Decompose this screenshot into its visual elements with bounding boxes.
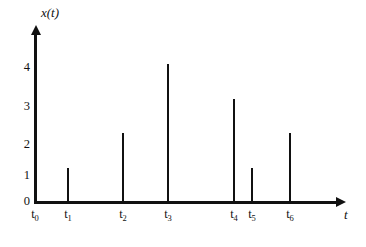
x-tick-label-t0: t0 (22, 208, 48, 221)
x-tick-subscript: 1 (68, 213, 72, 223)
x-tick-subscript: 4 (234, 213, 238, 223)
x-axis-line (34, 201, 340, 204)
y-tick-label-0: 0 (16, 195, 30, 208)
stem-t1 (67, 168, 68, 203)
x-axis-title: t (344, 208, 348, 221)
stem-t4 (233, 99, 234, 203)
x-tick-label-t2: t2 (110, 208, 136, 221)
y-axis-line (34, 33, 37, 203)
x-tick-subscript: 0 (35, 213, 39, 223)
x-axis-arrowhead-icon (336, 197, 346, 207)
stem-t3 (167, 64, 168, 202)
stem-t5 (251, 168, 252, 203)
x-tick-label-t1: t1 (55, 208, 81, 221)
y-tick-label-2: 2 (16, 138, 30, 151)
stem-t2 (122, 133, 123, 202)
x-tick-subscript: 6 (290, 213, 294, 223)
stem-t6 (289, 133, 290, 202)
y-axis-title: x(t) (41, 6, 59, 19)
x-tick-subscript: 3 (168, 213, 172, 223)
y-axis-arrowhead-icon (31, 25, 41, 35)
x-tick-subscript: 5 (252, 213, 256, 223)
y-tick-label-4: 4 (16, 61, 30, 74)
x-tick-label-t6: t6 (277, 208, 303, 221)
x-tick-label-t5: t5 (239, 208, 265, 221)
x-tick-subscript: 2 (123, 213, 127, 223)
stem-plot-figure: x(t) t 4 3 2 1 0 t0t1t2t3t4t5t6 (0, 0, 366, 247)
y-tick-label-3: 3 (16, 100, 30, 113)
y-tick-label-1: 1 (16, 169, 30, 182)
x-tick-label-t3: t3 (155, 208, 181, 221)
